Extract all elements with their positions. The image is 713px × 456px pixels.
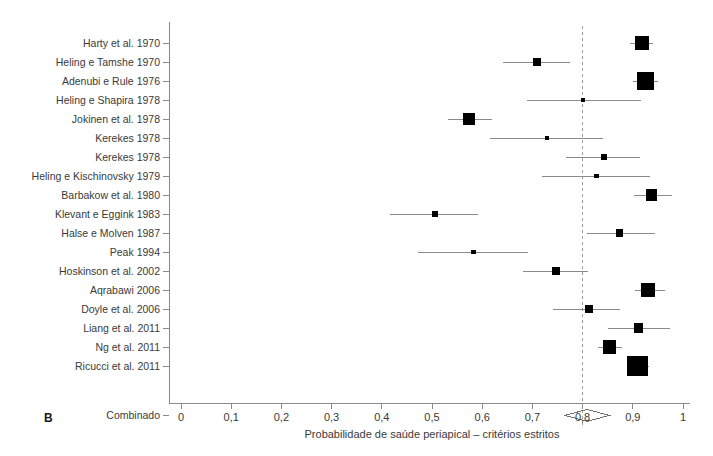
x-tick-label: 0,8 bbox=[575, 412, 590, 423]
point-estimate-marker bbox=[637, 72, 654, 89]
study-row bbox=[633, 72, 658, 89]
study-rows bbox=[390, 36, 672, 376]
study-row bbox=[608, 323, 670, 332]
study-row bbox=[542, 174, 650, 178]
x-axis-title: Probabilidade de saúde periapical – crit… bbox=[305, 429, 560, 440]
point-estimate-marker bbox=[471, 250, 476, 255]
study-label: Kerekes 1978 bbox=[95, 133, 160, 144]
panel-label: B bbox=[44, 412, 53, 424]
point-estimate-marker bbox=[634, 323, 643, 332]
x-tick-label: 0,9 bbox=[625, 412, 640, 423]
study-label: Peak 1994 bbox=[110, 247, 160, 258]
study-label: Harty et al. 1970 bbox=[83, 38, 160, 49]
point-estimate-marker bbox=[616, 229, 623, 236]
x-tick-label: 0,3 bbox=[324, 412, 339, 423]
study-label: Klevant e Eggink 1983 bbox=[55, 209, 160, 220]
study-row bbox=[634, 189, 672, 200]
study-label: Hoskinson et al. 2002 bbox=[59, 266, 160, 277]
study-label: Ricucci et al. 2011 bbox=[75, 361, 160, 372]
study-row bbox=[503, 58, 570, 66]
point-estimate-marker bbox=[641, 283, 655, 297]
point-estimate-marker bbox=[594, 174, 598, 178]
study-label: Kerekes 1978 bbox=[95, 152, 160, 163]
study-row bbox=[635, 283, 666, 297]
study-label: Aqrabawi 2006 bbox=[90, 285, 160, 296]
study-label: Ng et al. 2011 bbox=[95, 342, 160, 353]
study-label: Liang et al. 2011 bbox=[83, 323, 160, 334]
point-estimate-marker bbox=[581, 98, 585, 102]
study-row bbox=[627, 356, 649, 376]
study-label: Barbakow et al. 1980 bbox=[61, 190, 160, 201]
point-estimate-marker bbox=[585, 305, 593, 313]
x-tick-label: 0,6 bbox=[475, 412, 490, 423]
x-tick-label: 0,5 bbox=[424, 412, 439, 423]
study-row bbox=[553, 305, 620, 313]
x-tick-label: 0,2 bbox=[274, 412, 289, 423]
point-estimate-marker bbox=[635, 36, 649, 50]
study-row bbox=[527, 98, 641, 102]
point-estimate-marker bbox=[432, 211, 438, 217]
x-tick-label: 0 bbox=[178, 412, 184, 423]
study-row bbox=[390, 211, 478, 217]
study-label: Heling e Kischinovsky 1979 bbox=[32, 171, 160, 182]
point-estimate-marker bbox=[545, 136, 550, 141]
study-row bbox=[490, 136, 603, 141]
point-estimate-marker bbox=[533, 58, 541, 66]
point-estimate-marker bbox=[646, 189, 657, 200]
summary-label: Combinado bbox=[106, 410, 160, 421]
study-row bbox=[523, 267, 588, 275]
point-estimate-marker bbox=[627, 356, 648, 376]
point-estimate-marker bbox=[463, 113, 475, 125]
point-estimate-marker bbox=[603, 340, 616, 353]
study-row bbox=[566, 154, 640, 160]
forest-plot-figure: Harty et al. 1970Heling e Tamshe 1970Ade… bbox=[0, 0, 713, 456]
study-row bbox=[418, 250, 528, 255]
study-row bbox=[598, 340, 622, 353]
study-label: Doyle et al. 2006 bbox=[81, 304, 160, 315]
x-tick-label: 1 bbox=[680, 412, 686, 423]
study-label: Jokinen et al. 1978 bbox=[72, 114, 160, 125]
plot-axes bbox=[163, 22, 690, 415]
study-row bbox=[630, 36, 653, 50]
point-estimate-marker bbox=[601, 154, 607, 160]
study-label: Adenubi e Rule 1976 bbox=[62, 76, 160, 87]
point-estimate-marker bbox=[552, 267, 560, 275]
x-tick-label: 0,7 bbox=[525, 412, 540, 423]
study-label: Halse e Molven 1987 bbox=[61, 228, 160, 239]
study-label: Heling e Shapira 1978 bbox=[56, 95, 160, 106]
study-label: Heling e Tamshe 1970 bbox=[56, 57, 160, 68]
study-row bbox=[448, 113, 492, 125]
x-tick-label: 0,4 bbox=[374, 412, 389, 423]
study-row bbox=[587, 229, 655, 236]
x-tick-label: 0,1 bbox=[224, 412, 239, 423]
